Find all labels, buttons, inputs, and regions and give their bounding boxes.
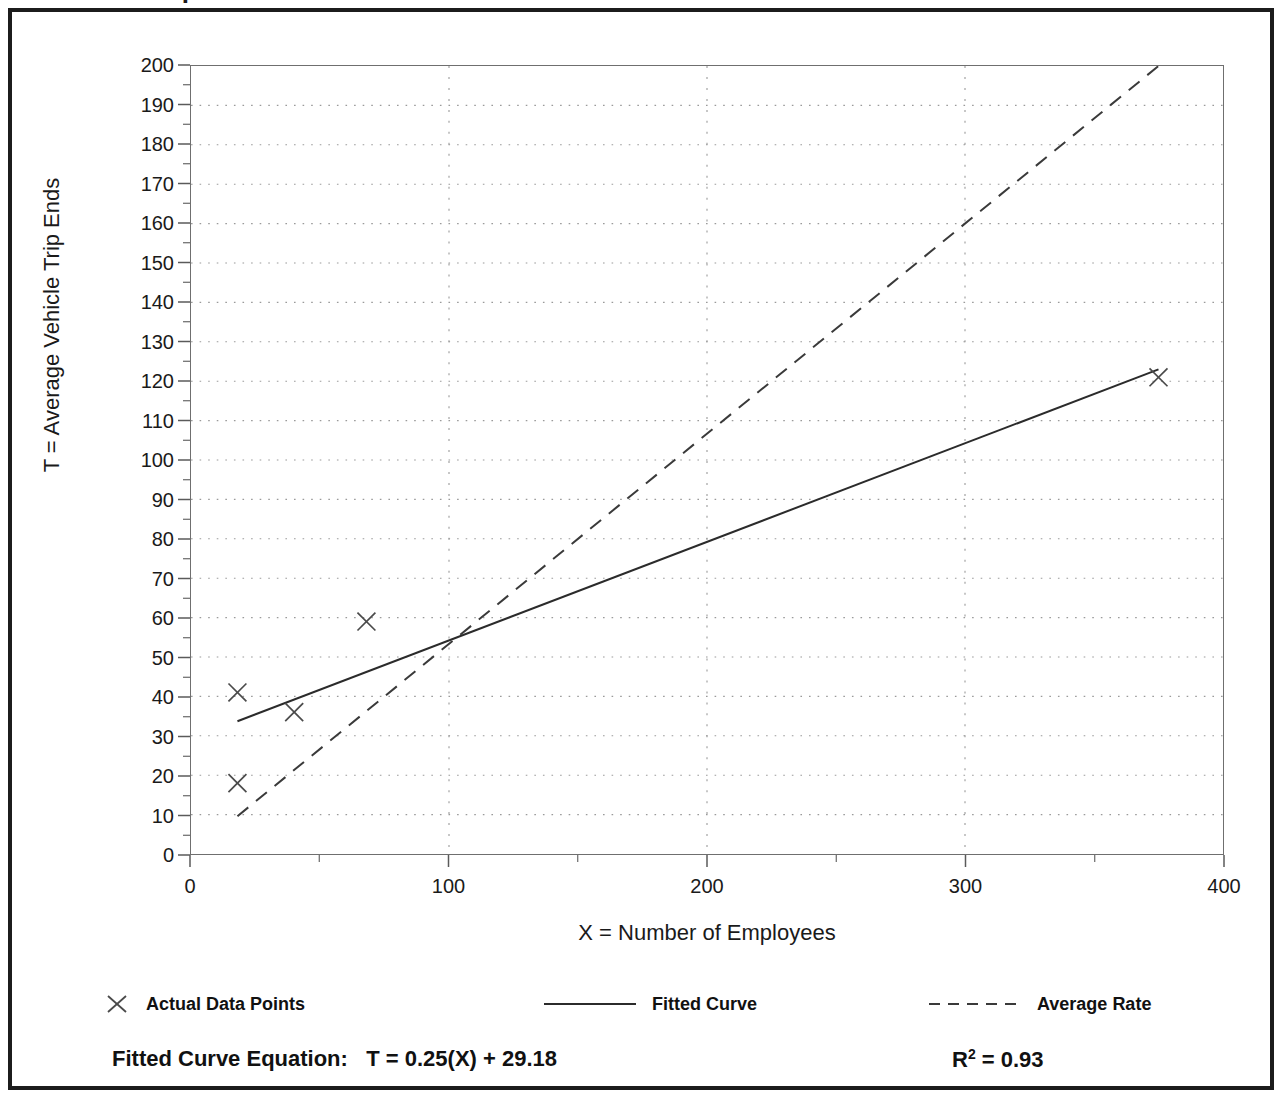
r-exponent: 2 xyxy=(968,1046,976,1062)
y-tick-label: 190 xyxy=(104,93,174,116)
r-squared-value: R2 = 0.93 xyxy=(952,1046,1044,1073)
legend-item-actual-data-points: Actual Data Points xyxy=(102,987,305,1021)
plot-graphics xyxy=(191,66,1223,854)
chart-screenshot: Trip Generation Plot T = Average Vehicle… xyxy=(0,0,1282,1099)
data-point-marker xyxy=(285,703,303,721)
y-tick-label: 100 xyxy=(104,449,174,472)
y-tick-label: 10 xyxy=(104,804,174,827)
y-tick-label: 120 xyxy=(104,370,174,393)
clipped-title: Trip Generation Plot xyxy=(0,0,1282,8)
equation-value: T = 0.25(X) + 29.18 xyxy=(366,1046,557,1071)
legend-item-fitted-curve: Fitted Curve xyxy=(542,987,757,1021)
fitted-curve-equation: Fitted Curve Equation: T = 0.25(X) + 29.… xyxy=(112,1046,557,1072)
y-tick-label: 70 xyxy=(104,567,174,590)
legend-label: Actual Data Points xyxy=(146,994,305,1015)
dashed-line-icon xyxy=(927,998,1023,1010)
r-symbol: R xyxy=(952,1047,968,1072)
y-tick-label: 130 xyxy=(104,330,174,353)
series-lines xyxy=(237,66,1158,816)
chart-legend: Actual Data Points Fitted Curve Average … xyxy=(72,987,1222,1021)
legend-label: Fitted Curve xyxy=(652,994,757,1015)
data-point-markers xyxy=(228,368,1167,792)
x-tick-label: 200 xyxy=(690,875,723,898)
y-tick-label: 0 xyxy=(104,844,174,867)
y-tick-label: 180 xyxy=(104,133,174,156)
y-tick-label: 50 xyxy=(104,646,174,669)
data-point-marker xyxy=(228,774,246,792)
r-value: = 0.93 xyxy=(982,1047,1044,1072)
y-tick-label: 30 xyxy=(104,725,174,748)
y-tick-label: 150 xyxy=(104,251,174,274)
x-tick-label: 0 xyxy=(184,875,195,898)
y-tick-label: 90 xyxy=(104,488,174,511)
equation-label: Fitted Curve Equation: xyxy=(112,1046,348,1071)
solid-line-icon xyxy=(542,998,638,1010)
chart-footer: Fitted Curve Equation: T = 0.25(X) + 29.… xyxy=(72,1042,1232,1082)
data-point-marker xyxy=(228,683,246,701)
x-tick-label: 100 xyxy=(432,875,465,898)
legend-label: Average Rate xyxy=(1037,994,1151,1015)
data-point-marker xyxy=(1150,368,1168,386)
y-tick-label: 140 xyxy=(104,291,174,314)
data-point-marker xyxy=(357,613,375,631)
y-tick-label: 170 xyxy=(104,172,174,195)
y-tick-label: 20 xyxy=(104,765,174,788)
x-marker-icon xyxy=(102,989,132,1019)
y-tick-label: 160 xyxy=(104,212,174,235)
plot-area xyxy=(190,65,1224,855)
x-tick-label: 300 xyxy=(949,875,982,898)
x-tick-label: 400 xyxy=(1207,875,1240,898)
gridlines xyxy=(191,105,1223,814)
y-axis-title: T = Average Vehicle Trip Ends xyxy=(39,65,65,585)
y-tick-label: 110 xyxy=(104,409,174,432)
legend-item-average-rate: Average Rate xyxy=(927,987,1151,1021)
clipped-title-text: Trip Generation Plot xyxy=(150,0,398,5)
y-tick-label: 80 xyxy=(104,528,174,551)
y-tick-label: 40 xyxy=(104,686,174,709)
y-tick-label: 60 xyxy=(104,607,174,630)
x-axis-title: X = Number of Employees xyxy=(190,920,1224,946)
y-tick-label: 200 xyxy=(104,54,174,77)
figure-frame: T = Average Vehicle Trip Ends 0102030405… xyxy=(8,8,1274,1090)
